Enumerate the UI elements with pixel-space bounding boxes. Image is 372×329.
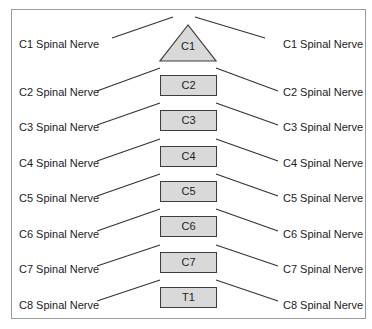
right-nerve-c3: C3 Spinal Nerve: [283, 121, 363, 134]
left-nerve-c1: C1 Spinal Nerve: [19, 38, 99, 51]
right-nerve-c6: C6 Spinal Nerve: [283, 228, 363, 241]
vertebra-c5: C5: [160, 181, 217, 202]
right-nerve-c4: C4 Spinal Nerve: [283, 157, 363, 170]
right-nerve-c7: C7 Spinal Nerve: [283, 263, 363, 276]
left-nerve-c7: C7 Spinal Nerve: [19, 263, 99, 276]
left-nerve-c2: C2 Spinal Nerve: [19, 86, 99, 99]
left-nerve-c4: C4 Spinal Nerve: [19, 157, 99, 170]
left-nerve-c6: C6 Spinal Nerve: [19, 228, 99, 241]
vertebra-c7: C7: [160, 252, 217, 273]
left-nerve-c3: C3 Spinal Nerve: [19, 121, 99, 134]
vertebra-c3: C3: [160, 110, 217, 131]
left-nerve-c8: C8 Spinal Nerve: [19, 299, 99, 312]
right-nerve-c8: C8 Spinal Nerve: [283, 299, 363, 312]
vertebra-t1: T1: [160, 287, 217, 308]
left-nerve-c5: C5 Spinal Nerve: [19, 192, 99, 205]
right-nerve-c1: C1 Spinal Nerve: [283, 38, 363, 51]
right-nerve-c2: C2 Spinal Nerve: [283, 86, 363, 99]
vertebra-c4: C4: [160, 146, 217, 167]
vertebra-c6: C6: [160, 216, 217, 237]
right-nerve-c5: C5 Spinal Nerve: [283, 192, 363, 205]
vertebra-c2: C2: [160, 75, 217, 96]
vertebra-c1-label: C1: [172, 40, 204, 53]
